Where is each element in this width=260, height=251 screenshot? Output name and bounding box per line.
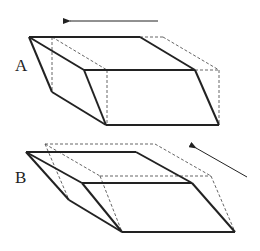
- original-box-b: [45, 144, 235, 232]
- panel-b: [26, 144, 247, 232]
- sheared-box-a: [29, 37, 219, 125]
- panel-a: [29, 21, 219, 125]
- original-box-a: [52, 37, 219, 125]
- arrow-up-left-icon: [196, 148, 247, 177]
- sheared-box-b: [26, 152, 235, 232]
- shear-diagram: [0, 0, 260, 251]
